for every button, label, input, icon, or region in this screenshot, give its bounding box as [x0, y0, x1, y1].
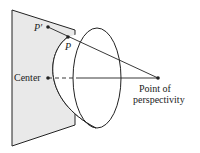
point-center: [46, 76, 50, 80]
label-center: Center: [14, 72, 41, 83]
label-p: P: [64, 41, 71, 52]
point-p: [66, 35, 70, 39]
label-p-prime: P′: [33, 22, 43, 33]
label-perspectivity-line1: Point of: [139, 83, 172, 94]
point-of-perspectivity: [156, 76, 160, 80]
point-p-prime: [46, 25, 50, 29]
stereographic-projection-diagram: P′ P Center Point of perspectivity: [0, 0, 200, 153]
label-perspectivity-line2: perspectivity: [133, 94, 185, 105]
